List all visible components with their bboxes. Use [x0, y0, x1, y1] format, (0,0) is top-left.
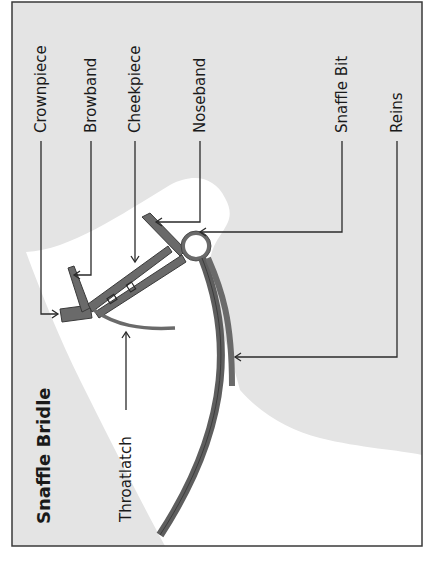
snaffle-bridle-diagram: Crownpiece Browband Cheekpiece Noseband … — [0, 0, 434, 563]
label-crownpiece: Crownpiece — [32, 45, 50, 133]
snaffle-bit-ring — [183, 233, 209, 259]
label-browband: Browband — [82, 58, 100, 133]
diagram-title: Snaffle Bridle — [33, 387, 54, 524]
label-noseband: Noseband — [191, 58, 209, 133]
label-reins: Reins — [388, 92, 406, 133]
label-throatlatch: Throatlatch — [117, 436, 135, 523]
label-snaffle-bit: Snaffle Bit — [333, 56, 351, 133]
label-cheekpiece: Cheekpiece — [126, 45, 144, 133]
